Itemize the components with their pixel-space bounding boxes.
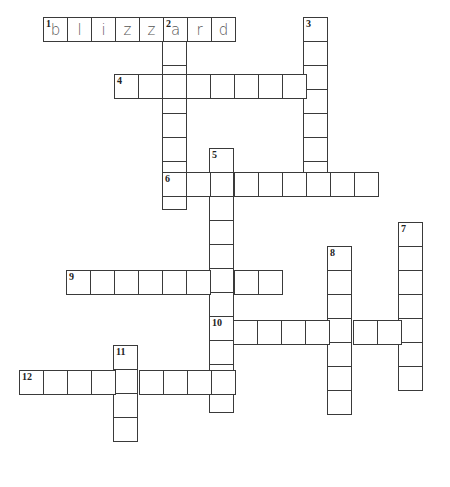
cell-letter: z (140, 21, 163, 39)
crossword-cell[interactable] (327, 390, 352, 415)
crossword-cell[interactable]: 4 (114, 74, 139, 99)
crossword-cell[interactable] (211, 370, 236, 395)
crossword-cell[interactable]: 1b (43, 17, 68, 42)
clue-number: 8 (330, 248, 335, 258)
clue-number: 5 (212, 150, 217, 160)
crossword-cell[interactable] (186, 270, 211, 295)
clue-number: 7 (401, 224, 406, 234)
crossword-cell[interactable]: l (67, 17, 92, 42)
crossword-cell[interactable]: 7 (398, 222, 423, 247)
cell-letter: i (92, 21, 115, 39)
crossword-cell[interactable] (187, 370, 212, 395)
clue-number: 11 (116, 347, 125, 357)
crossword-cell[interactable] (258, 270, 283, 295)
crossword-cell[interactable]: r (187, 17, 212, 42)
crossword-cell[interactable] (398, 294, 423, 319)
cell-letter: a (164, 21, 187, 39)
crossword-cell[interactable] (327, 294, 352, 319)
crossword-cell[interactable] (209, 340, 234, 365)
crossword-cell[interactable]: 6 (162, 172, 187, 197)
crossword-cell[interactable] (303, 137, 328, 162)
crossword-cell[interactable]: 10 (209, 316, 234, 341)
clue-number: 6 (165, 174, 170, 184)
crossword-cell[interactable] (209, 292, 234, 317)
crossword-cell[interactable]: 3 (303, 17, 328, 42)
crossword-cell[interactable] (138, 270, 163, 295)
crossword-cell[interactable] (258, 172, 283, 197)
crossword-cell[interactable] (377, 320, 402, 345)
crossword-cell[interactable]: z (115, 17, 140, 42)
crossword-cell[interactable] (282, 74, 307, 99)
crossword-cell[interactable] (91, 370, 116, 395)
crossword-cell[interactable] (114, 270, 139, 295)
crossword-cell[interactable]: 5 (209, 148, 234, 173)
clue-number: 9 (69, 272, 74, 282)
clue-number: 4 (117, 76, 122, 86)
crossword-cell[interactable] (303, 113, 328, 138)
crossword-cell[interactable]: 9 (66, 270, 91, 295)
clue-number: 3 (306, 19, 311, 29)
crossword-cell[interactable] (330, 172, 355, 197)
crossword-cell[interactable] (327, 270, 352, 295)
crossword-cell[interactable] (234, 74, 259, 99)
crossword-cell[interactable] (327, 318, 352, 343)
crossword-cell[interactable]: 11 (113, 345, 138, 370)
crossword-cell[interactable]: 2a (163, 17, 188, 42)
crossword-cell[interactable] (233, 320, 258, 345)
crossword-cell[interactable] (306, 172, 331, 197)
cell-letter: d (212, 21, 235, 39)
clue-number: 12 (22, 372, 32, 382)
crossword-cell[interactable]: d (211, 17, 236, 42)
crossword-cell[interactable] (234, 172, 259, 197)
crossword-cell[interactable] (43, 370, 68, 395)
crossword-cell[interactable] (209, 220, 234, 245)
crossword-cell[interactable] (162, 137, 187, 162)
cell-letter: r (188, 21, 211, 39)
crossword-cell[interactable] (354, 172, 379, 197)
crossword-cell[interactable] (138, 74, 163, 99)
crossword-cell[interactable] (305, 320, 330, 345)
cell-letter: l (68, 21, 91, 39)
crossword-cell[interactable] (234, 270, 259, 295)
crossword-cell[interactable] (162, 113, 187, 138)
crossword-grid: 1blizz2ard3451067891112 (0, 0, 450, 487)
crossword-cell[interactable] (186, 74, 211, 99)
crossword-cell[interactable]: 8 (327, 246, 352, 271)
crossword-cell[interactable] (398, 366, 423, 391)
crossword-cell[interactable] (162, 41, 187, 66)
crossword-cell[interactable] (303, 41, 328, 66)
crossword-cell[interactable] (327, 342, 352, 367)
crossword-cell[interactable] (139, 370, 164, 395)
crossword-cell[interactable] (353, 320, 378, 345)
crossword-cell[interactable] (398, 342, 423, 367)
crossword-cell[interactable] (282, 172, 307, 197)
crossword-cell[interactable] (162, 270, 187, 295)
crossword-cell[interactable] (209, 196, 234, 221)
cell-letter: b (44, 21, 67, 39)
crossword-cell[interactable]: i (91, 17, 116, 42)
crossword-cell[interactable]: z (139, 17, 164, 42)
crossword-cell[interactable] (398, 246, 423, 271)
crossword-cell[interactable] (163, 370, 188, 395)
clue-number: 10 (212, 318, 222, 328)
crossword-cell[interactable] (113, 417, 138, 442)
crossword-cell[interactable] (258, 74, 283, 99)
crossword-cell[interactable] (113, 369, 138, 394)
crossword-cell[interactable] (281, 320, 306, 345)
crossword-cell[interactable] (209, 172, 234, 197)
crossword-cell[interactable] (257, 320, 282, 345)
crossword-cell[interactable] (67, 370, 92, 395)
crossword-cell[interactable] (327, 366, 352, 391)
crossword-cell[interactable] (90, 270, 115, 295)
cell-letter: z (116, 21, 139, 39)
crossword-cell[interactable] (113, 393, 138, 418)
crossword-cell[interactable] (210, 74, 235, 99)
crossword-cell[interactable] (398, 270, 423, 295)
crossword-cell[interactable]: 12 (19, 370, 44, 395)
crossword-cell[interactable] (186, 172, 211, 197)
crossword-cell[interactable] (209, 244, 234, 269)
crossword-cell[interactable] (209, 268, 234, 293)
crossword-cell[interactable] (162, 74, 187, 99)
